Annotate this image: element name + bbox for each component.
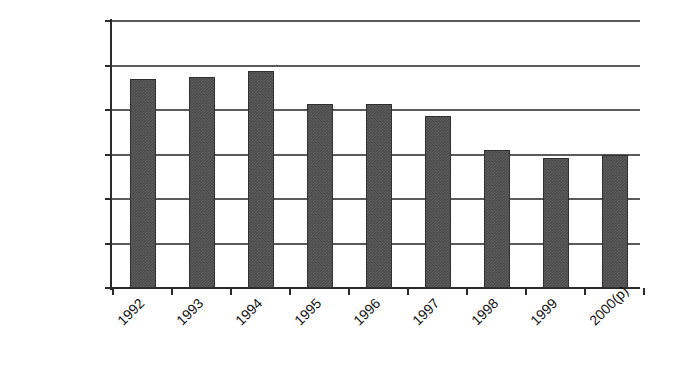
x-tick-mark-1995 (348, 288, 350, 295)
bar-1994 (248, 71, 274, 288)
bar-1999 (543, 158, 569, 288)
bar-2000(p) (602, 155, 628, 289)
x-tick-label-1994: 1994 (232, 295, 265, 328)
x-tick-mark-1998 (525, 288, 527, 295)
x-tick-mark-origin (112, 288, 114, 295)
x-tick-mark-1994 (289, 288, 291, 295)
x-tick-mark-1993 (230, 288, 232, 295)
bar-1996 (366, 104, 392, 288)
x-tick-label-2000(p): 2000(p) (586, 283, 631, 328)
x-tick-label-1995: 1995 (291, 295, 324, 328)
x-tick-label-1997: 1997 (409, 295, 442, 328)
bar-1992 (130, 79, 156, 288)
x-tick-mark-1999 (584, 288, 586, 295)
bar-1995 (307, 104, 333, 288)
homicides-bar-chart: Number of Homicides 02004006008001000120… (0, 0, 675, 386)
x-tick-mark-1997 (466, 288, 468, 295)
y-tick-mark-1000 (105, 65, 112, 67)
bar-1997 (425, 116, 451, 288)
y-tick-mark-800 (105, 109, 112, 111)
x-tick-mark-1992 (171, 288, 173, 295)
y-tick-mark-1200 (105, 20, 112, 22)
bar-1993 (189, 77, 215, 288)
x-tick-mark-2000(p) (643, 288, 645, 295)
y-tick-mark-600 (105, 154, 112, 156)
x-tick-label-1996: 1996 (350, 295, 383, 328)
y-tick-mark-400 (105, 198, 112, 200)
x-tick-label-1992: 1992 (114, 295, 147, 328)
gridline-1000 (112, 65, 640, 67)
x-tick-label-1993: 1993 (173, 295, 206, 328)
y-tick-mark-0 (105, 287, 112, 289)
x-tick-label-1999: 1999 (527, 295, 560, 328)
bar-1998 (484, 150, 510, 288)
plot-area: 0200400600800100012001992199319941995199… (112, 21, 640, 288)
y-tick-mark-200 (105, 243, 112, 245)
x-tick-label-1998: 1998 (468, 295, 501, 328)
x-tick-mark-1996 (407, 288, 409, 295)
gridline-1200 (112, 20, 640, 22)
